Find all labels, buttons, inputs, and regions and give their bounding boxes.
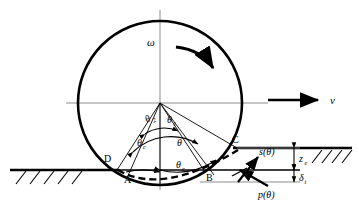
point-c-label: C: [232, 134, 239, 145]
theta1-label: θ 1: [167, 114, 176, 127]
ground-hatching-left: [16, 171, 82, 184]
svg-text:t: t: [305, 178, 307, 185]
shear-stress-label: s(θ): [259, 146, 275, 158]
svg-text:c: c: [182, 165, 185, 172]
velocity-label: v: [330, 94, 335, 106]
point-d-label: D: [104, 153, 111, 164]
svg-text:θ: θ: [176, 159, 181, 170]
point-b-label: B: [206, 172, 213, 183]
svg-text:θ: θ: [167, 114, 172, 125]
radius-to-C: [160, 103, 237, 148]
rotation-arrow: [176, 47, 213, 68]
svg-text:1: 1: [173, 120, 176, 127]
svg-text:c: c: [143, 143, 146, 150]
point-a-label: A: [124, 174, 132, 185]
normal-pressure-arrow: [240, 170, 268, 186]
sinkage-label: z e: [298, 153, 308, 166]
svg-text:e: e: [305, 159, 308, 166]
svg-text:δ: δ: [299, 172, 304, 183]
arc-theta1-theta2: [145, 128, 178, 134]
svg-text:z: z: [298, 153, 303, 164]
theta-label: θ: [177, 137, 182, 148]
svg-text:θ: θ: [137, 137, 142, 148]
normal-pressure-label: p(θ): [257, 189, 275, 201]
ground-hatching-right: [312, 150, 352, 163]
rut-depth-label: δ t: [299, 172, 307, 185]
wheel-terrain-figure: ω v θ 2 θ 1 θ c θ θ c A B C D s(θ) p(θ) …: [0, 0, 359, 214]
figure-canvas: ω v θ 2 θ 1 θ c θ θ c A B C D s(θ) p(θ) …: [0, 0, 359, 214]
omega-label: ω: [147, 36, 155, 48]
